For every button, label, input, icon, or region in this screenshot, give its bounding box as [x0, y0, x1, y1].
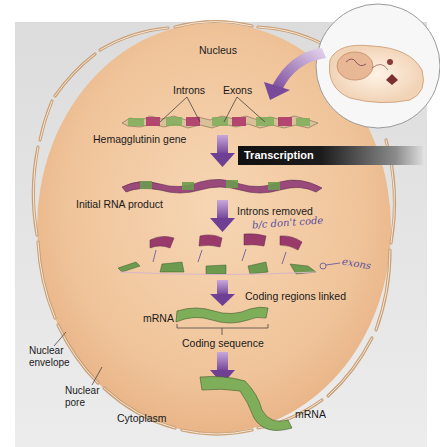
label-initial-rna-product: Initial RNA product: [76, 198, 163, 210]
cell-inset: [316, 4, 440, 128]
label-transcription: Transcription: [244, 149, 314, 161]
label-nucleus: Nucleus: [199, 44, 237, 56]
diagram-graphics: [0, 0, 440, 447]
transcription-banner: Transcription: [238, 146, 423, 165]
label-nuclear-pore-line2: pore: [65, 397, 85, 409]
label-coding-regions-linked: Coding regions linked: [245, 290, 346, 302]
label-nuclear-pore-line1: Nuclear: [65, 385, 99, 397]
label-introns: Introns: [173, 84, 205, 96]
label-coding-sequence: Coding sequence: [182, 337, 264, 349]
label-nuclear-envelope-line1: Nuclear: [29, 345, 63, 357]
label-mrna-inside: mRNA: [143, 312, 174, 324]
label-nuclear-envelope-line2: envelope: [29, 357, 70, 369]
label-mrna-outside: mRNA: [295, 408, 326, 420]
label-cytoplasm: Cytoplasm: [117, 412, 167, 424]
diagram-stage: Nucleus Introns Exons Hemagglutinin gene…: [0, 0, 440, 447]
label-exons: Exons: [223, 84, 252, 96]
label-hemagglutinin-gene: Hemagglutinin gene: [93, 133, 186, 145]
